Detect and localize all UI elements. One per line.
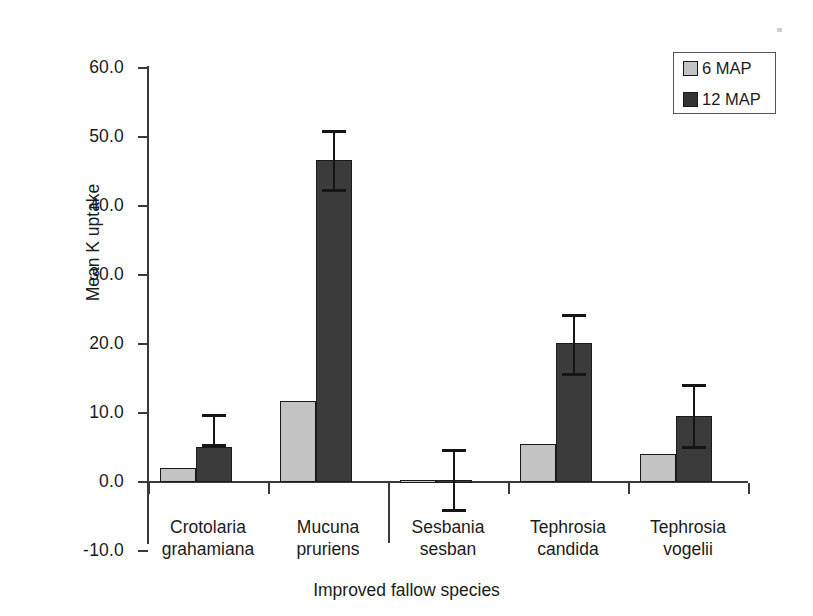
bar-6map <box>280 401 316 482</box>
category-label: Tephrosiacandida <box>502 516 634 560</box>
error-bar-cap-bottom <box>322 189 346 192</box>
error-bar <box>316 130 352 192</box>
legend-item-12map: 12 MAP <box>674 84 775 115</box>
category-label: Crotolariagrahamiana <box>142 516 274 560</box>
error-bar-cap-top <box>202 414 226 417</box>
error-bar <box>436 449 472 512</box>
error-bar-stem <box>213 414 216 446</box>
category-label-line: sesban <box>382 538 514 560</box>
bar-6map <box>640 454 676 482</box>
bar-12map <box>196 447 232 482</box>
y-tick-label: 40.0 <box>62 195 124 216</box>
y-tick-label: 50.0 <box>62 126 124 147</box>
category-label-line: Tephrosia <box>622 516 754 538</box>
y-tick-label: 30.0 <box>62 264 124 285</box>
y-tick <box>138 343 148 345</box>
x-tick <box>148 483 150 494</box>
error-bar <box>196 414 232 446</box>
error-bar-stem <box>333 130 336 192</box>
y-tick-label: 20.0 <box>62 333 124 354</box>
bar-chart: Mean K uptake 60.050.040.030.020.010.00.… <box>0 0 813 616</box>
category-label-line: Crotolaria <box>142 516 274 538</box>
category-label-line: grahamiana <box>142 538 274 560</box>
error-bar-cap-top <box>562 314 586 317</box>
y-tick-label: 60.0 <box>62 57 124 78</box>
error-bar-stem <box>693 384 696 449</box>
y-tick <box>138 67 148 69</box>
bar-12map <box>316 160 352 482</box>
error-bar-cap-bottom <box>682 446 706 449</box>
scan-artifact <box>777 28 782 32</box>
y-axis-label: Mean K uptake <box>83 128 104 358</box>
error-bar-cap-bottom <box>202 444 226 447</box>
error-bar <box>556 314 592 377</box>
category-label-line: Tephrosia <box>502 516 634 538</box>
y-tick <box>138 274 148 276</box>
error-bar-cap-bottom <box>562 373 586 376</box>
bar-6map <box>400 480 436 483</box>
category-label: Sesbaniasesban <box>382 516 514 560</box>
x-tick <box>268 483 270 494</box>
category-label-line: Sesbania <box>382 516 514 538</box>
y-tick <box>138 412 148 414</box>
x-tick <box>628 483 630 494</box>
bar-6map <box>160 468 196 482</box>
error-bar <box>676 384 712 449</box>
category-label-line: vogelii <box>622 538 754 560</box>
category-label-line: pruriens <box>262 538 394 560</box>
error-bar-stem <box>453 449 456 512</box>
y-tick <box>138 481 148 483</box>
category-label: Mucunapruriens <box>262 516 394 560</box>
legend-swatch-12map <box>683 92 698 107</box>
category-label-line: candida <box>502 538 634 560</box>
category-label: Tephrosiavogelii <box>622 516 754 560</box>
legend-label-12map: 12 MAP <box>702 90 761 109</box>
y-tick-label: 0.0 <box>62 471 124 492</box>
category-label-line: Mucuna <box>262 516 394 538</box>
x-tick <box>748 483 750 494</box>
y-tick-label: 10.0 <box>62 402 124 423</box>
legend-label-6map: 6 MAP <box>702 59 752 78</box>
legend-item-6map: 6 MAP <box>674 53 775 84</box>
error-bar-cap-bottom <box>442 509 466 512</box>
y-tick <box>138 136 148 138</box>
error-bar-cap-top <box>322 130 346 133</box>
x-axis-label: Improved fallow species <box>0 580 813 601</box>
error-bar-stem <box>573 314 576 377</box>
x-tick <box>508 483 510 494</box>
error-bar-cap-top <box>682 384 706 387</box>
y-tick-label: -10.0 <box>62 540 124 561</box>
y-tick <box>138 205 148 207</box>
error-bar-cap-top <box>442 449 466 452</box>
legend-swatch-6map <box>683 61 698 76</box>
bar-6map <box>520 444 556 482</box>
legend: 6 MAP 12 MAP <box>673 52 776 114</box>
